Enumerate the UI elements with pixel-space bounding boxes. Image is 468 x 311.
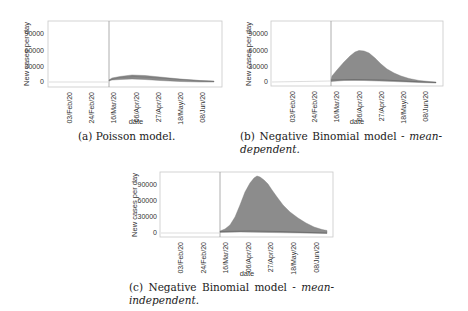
chart-panel-c: New cases per day 0 30000 60000 90000 03… xyxy=(120,150,354,311)
svg-text:24/Feb/20: 24/Feb/20 xyxy=(311,91,318,123)
svg-text:03/Feb/20: 03/Feb/20 xyxy=(289,91,296,123)
caption-prefix: (a) xyxy=(78,130,92,142)
svg-text:27/Apr/20: 27/Apr/20 xyxy=(378,91,386,121)
svg-text:16/Mar/20: 16/Mar/20 xyxy=(110,92,117,124)
svg-text:18/May/20: 18/May/20 xyxy=(400,91,408,124)
svg-text:18/May/20: 18/May/20 xyxy=(290,242,298,275)
caption-text: Poisson model. xyxy=(96,130,175,142)
y-ticks: 0 30000 60000 90000 xyxy=(138,181,158,236)
forecast-band xyxy=(220,176,327,234)
svg-text:30000: 30000 xyxy=(249,63,269,70)
x-axis-label: date xyxy=(240,269,255,278)
svg-text:60000: 60000 xyxy=(25,47,45,54)
caption-prefix: (b) xyxy=(240,130,255,142)
caption-c: (c) Negative Binomial model - mean-indep… xyxy=(129,281,334,307)
svg-text:16/Mar/20: 16/Mar/20 xyxy=(333,91,340,123)
caption-prefix: (c) xyxy=(129,281,143,293)
svg-text:24/Feb/20: 24/Feb/20 xyxy=(88,92,95,124)
svg-text:24/Feb/20: 24/Feb/20 xyxy=(200,242,207,274)
svg-text:18/May/20: 18/May/20 xyxy=(177,92,185,125)
svg-text:06/Apr/20: 06/Apr/20 xyxy=(245,242,253,272)
svg-text:90000: 90000 xyxy=(138,181,158,188)
svg-text:0: 0 xyxy=(153,229,157,236)
svg-text:0: 0 xyxy=(264,78,268,85)
forecast-band xyxy=(331,51,436,84)
svg-text:30000: 30000 xyxy=(138,213,158,220)
x-axis-label: date xyxy=(350,117,365,126)
svg-text:03/Feb/20: 03/Feb/20 xyxy=(66,92,73,124)
chart-a-svg: New cases per day 0 30000 60000 90000 03… xyxy=(0,0,234,150)
chart-panel-b: New cases per day 0 30000 60000 90000 03… xyxy=(234,0,468,160)
svg-text:08/Jun/20: 08/Jun/20 xyxy=(422,91,429,122)
svg-text:27/Apr/20: 27/Apr/20 xyxy=(155,92,163,122)
x-axis-label: date xyxy=(129,117,144,126)
forecast-band xyxy=(109,75,214,82)
svg-text:0: 0 xyxy=(40,78,44,85)
svg-text:90000: 90000 xyxy=(249,30,269,37)
caption-a: (a) Poisson model. xyxy=(78,130,238,143)
svg-text:03/Feb/20: 03/Feb/20 xyxy=(177,242,184,274)
baseline xyxy=(272,81,330,82)
caption-text: Negative Binomial model - xyxy=(260,130,405,142)
svg-text:60000: 60000 xyxy=(249,47,269,54)
svg-text:90000: 90000 xyxy=(25,30,45,37)
svg-text:16/Mar/20: 16/Mar/20 xyxy=(222,242,229,274)
svg-text:27/Apr/20: 27/Apr/20 xyxy=(267,242,275,272)
svg-text:08/Jun/20: 08/Jun/20 xyxy=(313,242,320,273)
chart-panel-a: New cases per day 0 30000 60000 90000 03… xyxy=(0,0,234,150)
caption-text: Negative Binomial model - xyxy=(148,281,295,293)
svg-text:08/Jun/20: 08/Jun/20 xyxy=(199,92,206,123)
svg-text:60000: 60000 xyxy=(138,197,158,204)
svg-text:30000: 30000 xyxy=(25,63,45,70)
